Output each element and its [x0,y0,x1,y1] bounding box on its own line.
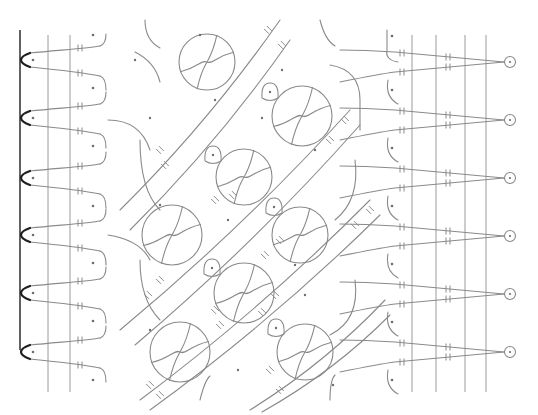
thread [30,221,100,228]
thread [100,368,106,382]
twist-tick [274,291,279,296]
twist-tick [258,311,263,316]
pinhole [92,262,95,265]
pinhole [237,369,239,371]
twist-tick [159,276,164,281]
twist-tick [219,321,224,326]
thread [30,300,100,309]
thread [340,62,504,82]
pinhole [509,61,511,63]
pinhole [32,351,35,354]
thread [330,65,360,130]
twist-tick-marks [78,26,450,399]
twist-tick [264,29,269,34]
thread [340,282,504,294]
twist-tick [232,191,237,196]
twist-tick [159,391,164,396]
pinhole [212,154,214,156]
pinhole [304,294,306,296]
ring-crossing [290,208,310,261]
pinhole [32,117,35,120]
twist-tick [278,44,283,49]
twist-tick [366,209,371,214]
thread [100,152,106,164]
pinhole [314,149,316,151]
twist-tick [156,394,161,399]
pinhole [149,117,151,119]
thread [387,196,398,220]
twist-tick [159,146,164,151]
thread [30,338,100,345]
pinhole [332,384,334,386]
thread [30,104,100,111]
picot-edge [21,53,30,359]
thread [100,267,106,279]
thread [135,52,160,82]
twist-tick [344,116,349,121]
thread [100,92,106,104]
thread [340,178,504,198]
thread [387,80,398,104]
thread [340,166,504,178]
thread [340,236,504,256]
pinhole [509,177,511,179]
thread [108,235,150,260]
pinhole [227,219,229,221]
pinhole [92,145,95,148]
thread [30,242,100,251]
twist-tick [214,196,219,201]
pinhole [391,263,394,266]
braid-thread [262,315,390,412]
braid-thread [120,20,280,210]
twist-tick [261,308,266,313]
thread [30,279,100,286]
pinhole [32,177,35,180]
picot-loop [21,228,30,242]
ring-crossing [234,265,255,322]
pinhole [509,235,511,237]
thread [30,46,100,53]
thread [387,370,398,394]
pinhole [159,204,161,206]
twist-tick [269,366,274,371]
pinhole [92,379,95,382]
pinhole [509,119,511,121]
pinhole [391,379,394,382]
twist-tick [149,381,154,386]
pinhole [294,264,296,266]
thread [30,164,100,171]
ring-crossing [197,35,217,88]
pinhole [391,321,394,324]
thread [340,120,504,140]
ring-crossing [170,324,191,381]
twist-tick [281,41,286,46]
thread [330,375,335,400]
pinhole [391,35,394,38]
twist-tick [211,199,216,204]
pinhole [92,205,95,208]
pinhole [211,267,213,269]
thread [200,376,210,400]
thread [108,120,150,150]
thread [30,125,100,134]
twist-tick [326,139,331,144]
pinhole [134,59,136,61]
twist-tick [266,369,271,374]
pinhole [92,34,95,37]
thread [340,352,504,372]
thread [100,209,106,221]
pinhole [92,320,95,323]
braid-thread [250,300,385,410]
twist-tick [369,206,374,211]
thread [335,160,356,220]
pinhole [32,59,35,62]
thread [340,108,504,120]
twist-tick [261,254,266,259]
pinhole [391,89,394,92]
pinhole [273,206,275,208]
thread [30,185,100,194]
picot-loop [21,53,30,67]
picot-loop [21,171,30,185]
pinhole [391,147,394,150]
diagram-canvas [0,0,538,415]
